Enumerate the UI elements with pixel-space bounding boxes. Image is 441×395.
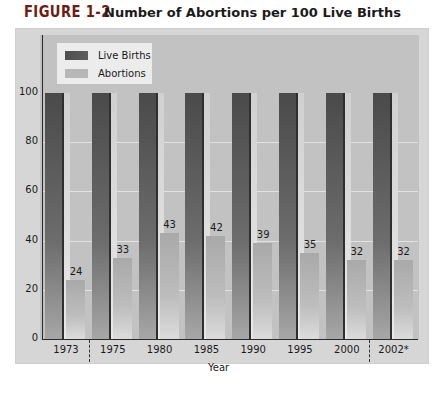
- y-tick-label: 20: [0, 283, 38, 294]
- bar-abortions: [347, 260, 366, 339]
- chart-title: Number of Abortions per 100 Live Births: [104, 5, 401, 20]
- x-tick-label: 1980: [137, 344, 183, 355]
- bar-live-births: [139, 93, 158, 339]
- bar-abortions: [206, 236, 225, 339]
- bar-live-births: [185, 93, 204, 339]
- y-axis: [42, 35, 43, 340]
- y-tick-label: 0: [0, 332, 38, 343]
- bar-abortions: [300, 253, 319, 339]
- data-label: 35: [298, 239, 322, 250]
- bar-live-births: [45, 93, 64, 339]
- legend-swatch-icon: [65, 51, 88, 60]
- legend-item-live-births: Live Births: [65, 49, 151, 61]
- x-tick-label: 2002*: [371, 344, 417, 355]
- data-label: 33: [111, 244, 135, 255]
- separator-dash: [89, 340, 90, 362]
- x-tick-label: 1990: [230, 344, 276, 355]
- separator-dash: [369, 340, 370, 362]
- bar-abortions: [394, 260, 413, 339]
- data-label: 42: [204, 222, 228, 233]
- legend-label: Abortions: [98, 68, 146, 79]
- y-tick-label: 80: [0, 135, 38, 146]
- bar-live-births: [232, 93, 251, 339]
- data-label: 32: [345, 246, 369, 257]
- x-axis: [42, 339, 418, 340]
- y-tick-label: 100: [0, 86, 38, 97]
- bar-abortions: [66, 280, 85, 339]
- x-tick-label: 1973: [43, 344, 89, 355]
- data-label: 43: [158, 219, 182, 230]
- bar-abortions: [160, 233, 179, 339]
- data-label: 32: [392, 246, 416, 257]
- x-tick-label: 1975: [90, 344, 136, 355]
- legend-item-abortions: Abortions: [65, 67, 146, 79]
- bar-live-births: [373, 93, 392, 339]
- legend: Live Births Abortions: [57, 43, 152, 84]
- bar-live-births: [92, 93, 111, 339]
- data-label: 39: [251, 229, 275, 240]
- bar-abortions: [253, 243, 272, 339]
- figure-label: FIGURE 1-2: [24, 2, 111, 21]
- bar-live-births: [279, 93, 298, 339]
- legend-swatch-icon: [65, 69, 88, 78]
- bar-abortions: [113, 258, 132, 339]
- legend-label: Live Births: [98, 50, 151, 61]
- x-tick-label: 2000: [324, 344, 370, 355]
- y-tick-label: 60: [0, 184, 38, 195]
- x-tick-label: 1985: [183, 344, 229, 355]
- bar-live-births: [326, 93, 345, 339]
- x-axis-label: Year: [208, 362, 229, 373]
- x-tick-label: 1995: [277, 344, 323, 355]
- data-label: 24: [64, 266, 88, 277]
- y-tick-label: 40: [0, 234, 38, 245]
